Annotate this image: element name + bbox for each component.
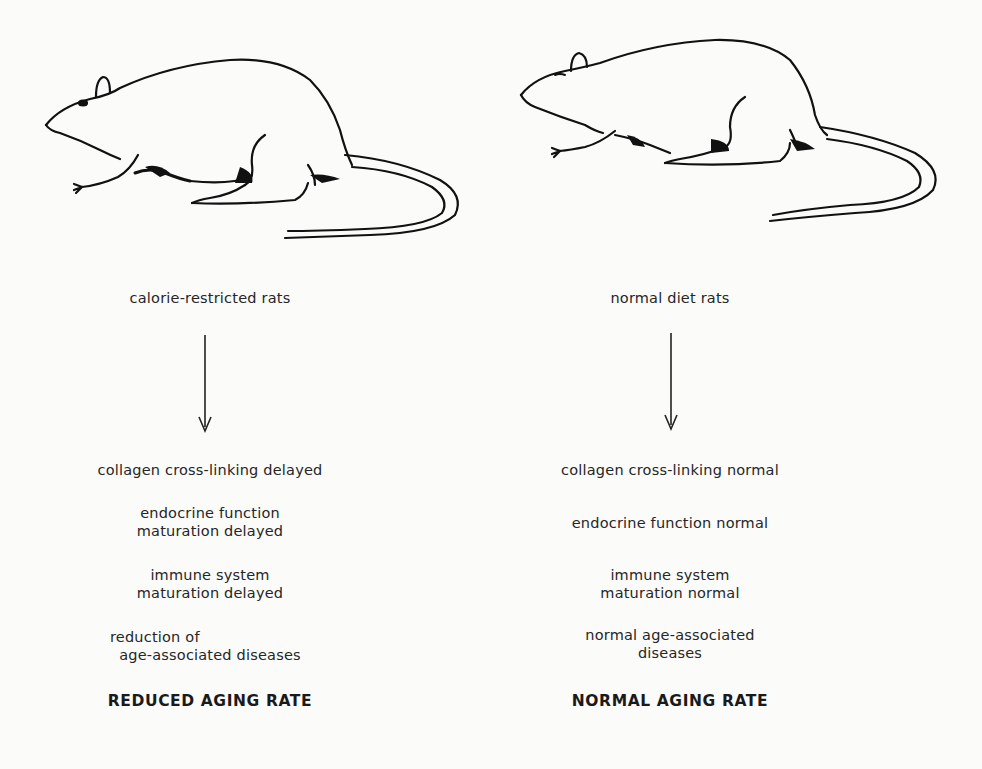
effect-immune-delayed-line1: immune system <box>60 566 360 584</box>
down-arrow-icon <box>197 335 213 435</box>
calorie-restricted-rat-illustration <box>40 55 470 245</box>
outcome-reduced-aging-rate: REDUCED AGING RATE <box>60 692 360 710</box>
calorie-restricted-group-label: calorie-restricted rats <box>60 289 360 307</box>
effect-endocrine-delayed-line2: maturation delayed <box>60 522 360 540</box>
effect-endocrine-normal: endocrine function normal <box>520 514 820 532</box>
normal-diet-rat-illustration <box>515 35 945 230</box>
rat-icon <box>40 55 470 245</box>
effect-disease-normal-line1: normal age-associated <box>520 626 820 644</box>
rat-icon <box>515 35 945 230</box>
down-arrow-icon <box>663 333 679 433</box>
effect-immune-delayed-line2: maturation delayed <box>60 584 360 602</box>
effect-immune-normal-line2: maturation normal <box>520 584 820 602</box>
effect-disease-normal-line2: diseases <box>520 644 820 662</box>
effect-disease-reduction-line1: reduction of <box>110 628 310 646</box>
effect-disease-reduction-line2: age-associated diseases <box>60 646 360 664</box>
outcome-normal-aging-rate: NORMAL AGING RATE <box>520 692 820 710</box>
effect-immune-normal-line1: immune system <box>520 566 820 584</box>
normal-diet-group-label: normal diet rats <box>520 289 820 307</box>
effect-collagen-delayed: collagen cross-linking delayed <box>60 461 360 479</box>
effect-collagen-normal: collagen cross-linking normal <box>520 461 820 479</box>
effect-endocrine-delayed-line1: endocrine function <box>60 504 360 522</box>
